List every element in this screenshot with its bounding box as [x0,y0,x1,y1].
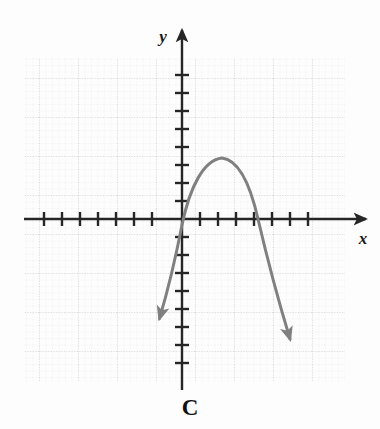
x-axis-label: x [358,229,368,248]
figure-canvas: y x C [0,0,380,429]
panel-label: C [182,395,199,420]
y-axis-label: y [157,27,167,46]
graph-svg: y x C [0,0,380,429]
